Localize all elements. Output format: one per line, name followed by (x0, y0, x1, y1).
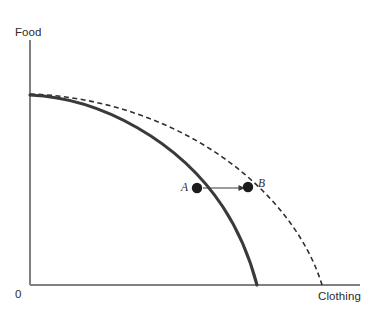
initial-ppf-curve (30, 95, 257, 285)
x-axis-title: Clothing (318, 291, 361, 303)
y-axis-title: Food (15, 27, 42, 39)
ppf-chart-canvas (0, 0, 373, 315)
expanded-ppf-curve (30, 94, 322, 285)
point-a-label: A (181, 182, 188, 194)
ppf-figure: Food Clothing 0 A B (0, 0, 373, 315)
point-b-marker (243, 182, 253, 192)
point-b-label: B (258, 178, 265, 190)
origin-label: 0 (15, 289, 21, 301)
point-a-marker (192, 183, 202, 193)
